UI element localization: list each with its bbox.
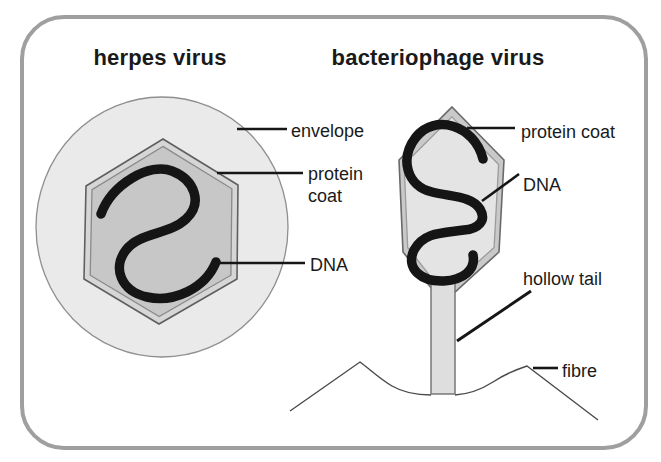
bacteriophage-virus-title: bacteriophage virus	[330, 45, 546, 71]
herpes-protein-coat-label: protein coat	[308, 163, 363, 207]
fibre-label: fibre	[562, 360, 597, 382]
hollow-tail-label: hollow tail	[523, 268, 602, 290]
hollow-tail-pointer-line	[457, 291, 531, 341]
phage-tail-shape	[431, 283, 455, 394]
envelope-label: envelope	[291, 120, 364, 142]
herpes-dna-label: DNA	[310, 254, 348, 276]
fibre-left-line	[290, 362, 431, 411]
phage-protein-coat-label: protein coat	[521, 121, 615, 143]
herpes-virus-title: herpes virus	[70, 45, 250, 71]
phage-dna-label: DNA	[523, 174, 561, 196]
